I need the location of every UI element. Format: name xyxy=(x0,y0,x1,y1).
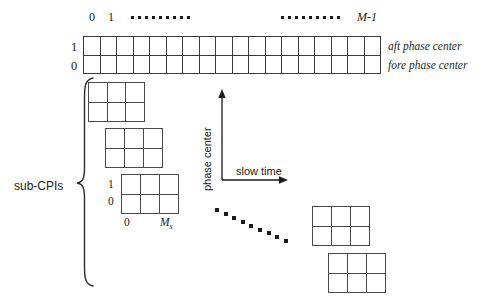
block3-x-tick-0: 0 xyxy=(124,217,130,229)
grid-cell xyxy=(200,37,217,56)
top-index-label-0: 0 xyxy=(89,11,95,23)
top-index-label-1: 1 xyxy=(108,11,114,23)
ellipsis-dot xyxy=(180,16,183,19)
grid-cell xyxy=(282,37,299,56)
ellipsis-dot xyxy=(159,16,162,19)
slow-time-axis-label: slow time xyxy=(236,166,282,177)
block-cell xyxy=(348,274,367,294)
block-cell xyxy=(160,195,179,215)
diagonal-ellipsis-dot xyxy=(275,235,279,239)
diagonal-ellipsis-dots xyxy=(215,208,295,246)
ellipsis-dot xyxy=(166,16,169,19)
block-cell xyxy=(144,149,163,169)
grid-cell xyxy=(117,56,134,75)
diagonal-ellipsis-dot xyxy=(215,208,219,212)
grid-cell xyxy=(348,37,365,56)
grid-cell xyxy=(332,37,349,56)
grid-cell xyxy=(315,37,332,56)
sub-cpis-label: sub-CPIs xyxy=(14,180,63,192)
diagonal-ellipsis-dot xyxy=(267,231,271,235)
ellipsis-dot xyxy=(173,16,176,19)
block3-y-tick-0: 0 xyxy=(108,196,114,208)
top-dots-left xyxy=(131,16,190,19)
grid-cell xyxy=(332,56,349,75)
grid-cell xyxy=(249,56,266,75)
grid-cell xyxy=(134,37,151,56)
block-cell xyxy=(122,175,141,195)
ellipsis-dot xyxy=(187,16,190,19)
grid-cell xyxy=(101,56,118,75)
grid-cell xyxy=(167,37,184,56)
block-cell xyxy=(367,274,386,294)
grid-cell xyxy=(233,56,250,75)
block-cell xyxy=(351,207,370,227)
top-index-label-m-minus-1: M-1 xyxy=(357,11,377,23)
ellipsis-dot xyxy=(145,16,148,19)
phase-center-axis-label: phase center xyxy=(202,127,213,191)
block-cell xyxy=(125,149,144,169)
sub-cpi-block-2 xyxy=(105,128,163,168)
grid-cell xyxy=(299,56,316,75)
block-cell xyxy=(141,175,160,195)
figure-canvas: 0 1 M-1 1 0 aft phase center fore phase … xyxy=(0,0,493,296)
grid-cell xyxy=(167,56,184,75)
diagonal-ellipsis-dot xyxy=(258,228,262,232)
block-cell xyxy=(126,83,145,103)
block-cell xyxy=(125,129,144,149)
phase-center-slow-time-grid xyxy=(83,36,381,74)
ellipsis-dot xyxy=(309,16,312,19)
grid-cell xyxy=(150,56,167,75)
long-grid-row-label-0: 0 xyxy=(71,60,77,73)
block-cell xyxy=(367,254,386,274)
block-cell xyxy=(144,129,163,149)
block-cell xyxy=(348,254,367,274)
sub-cpi-block-3 xyxy=(121,174,179,214)
block-cell xyxy=(329,254,348,274)
ellipsis-dot xyxy=(316,16,319,19)
sub-cpi-block-1 xyxy=(88,82,145,122)
ellipsis-dot xyxy=(281,16,284,19)
sub-cpi-block-4 xyxy=(312,206,370,246)
grid-cell xyxy=(150,37,167,56)
block-cell xyxy=(332,207,351,227)
grid-cell xyxy=(365,56,382,75)
ellipsis-dot xyxy=(323,16,326,19)
long-grid-row-label-1: 1 xyxy=(71,41,77,54)
block-cell xyxy=(122,195,141,215)
block-cell xyxy=(89,83,108,103)
block-cell xyxy=(106,149,125,169)
block-cell xyxy=(108,103,127,123)
ellipsis-dot xyxy=(131,16,134,19)
grid-cell xyxy=(365,37,382,56)
ellipsis-dot xyxy=(152,16,155,19)
ellipsis-dot xyxy=(288,16,291,19)
fore-phase-center-label: fore phase center xyxy=(388,60,467,72)
grid-cell xyxy=(266,37,283,56)
grid-cell xyxy=(299,37,316,56)
ellipsis-dot xyxy=(337,16,340,19)
m-minus-1-text: M-1 xyxy=(357,10,377,24)
grid-cell xyxy=(216,56,233,75)
block-cell xyxy=(329,274,348,294)
grid-cell xyxy=(249,37,266,56)
ellipsis-dot xyxy=(138,16,141,19)
diagonal-ellipsis-dot xyxy=(249,224,253,228)
grid-cell xyxy=(183,56,200,75)
block-cell xyxy=(160,175,179,195)
top-dots-right xyxy=(281,16,340,19)
ellipsis-dot xyxy=(302,16,305,19)
grid-cell xyxy=(84,56,101,75)
block-cell xyxy=(351,227,370,247)
grid-cell xyxy=(315,56,332,75)
grid-cell xyxy=(233,37,250,56)
grid-cell xyxy=(216,37,233,56)
grid-cell xyxy=(101,37,118,56)
sub-cpi-block-5 xyxy=(328,253,386,293)
grid-cell xyxy=(183,37,200,56)
aft-phase-center-label: aft phase center xyxy=(388,41,461,53)
ms-subscript: s xyxy=(170,222,173,231)
block-cell xyxy=(313,227,332,247)
block-cell xyxy=(89,103,108,123)
grid-cell xyxy=(348,56,365,75)
block-cell xyxy=(141,195,160,215)
